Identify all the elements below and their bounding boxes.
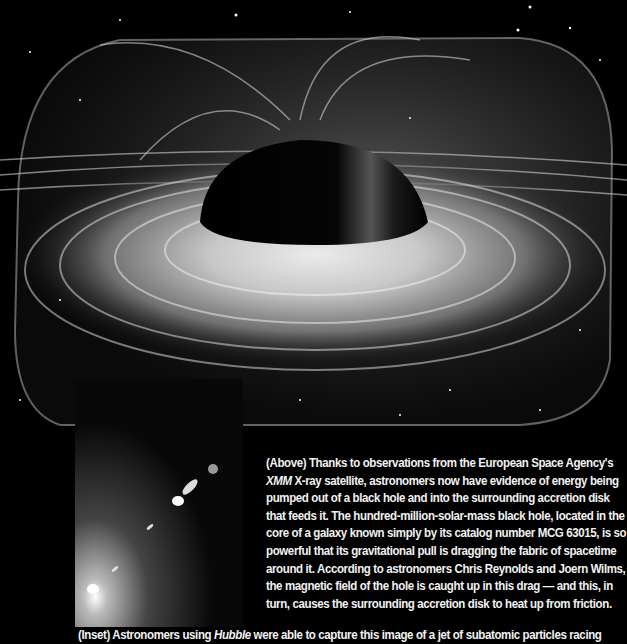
inset-caption-part1: (Inset) Astronomers using <box>78 627 214 642</box>
black-hole-illustration <box>0 0 627 428</box>
inset-caption-part2: were able to capture this image of a jet… <box>251 627 602 642</box>
inset-caption: (Inset) Astronomers using Hubble were ab… <box>78 626 560 644</box>
caption-italic-xmm: XMM <box>266 473 292 488</box>
inset-image-hubble-jet <box>75 379 243 627</box>
main-caption: (Above) Thanks to observations from the … <box>266 454 627 612</box>
jet-image <box>75 379 243 627</box>
caption-text-part1: (Above) Thanks to observations from the … <box>266 455 613 470</box>
caption-text-part2: X-ray satellite, astronomers now have ev… <box>266 473 626 611</box>
hero-image-black-hole <box>0 0 627 428</box>
inset-caption-italic-hubble: Hubble <box>214 627 251 642</box>
